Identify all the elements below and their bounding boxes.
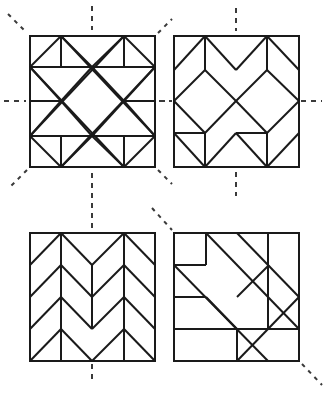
- diagonal-axis-bottom-right: [302, 364, 322, 385]
- pattern-segment: [236, 133, 267, 167]
- pattern-segment: [30, 329, 61, 361]
- pattern-segment: [174, 70, 205, 101]
- block-4-group: [174, 233, 299, 361]
- pattern-segment: [124, 36, 155, 67]
- diagonal-axis-bottom-left: [10, 170, 27, 187]
- pattern-segment: [61, 233, 92, 265]
- pattern-segment: [205, 70, 236, 101]
- pattern-segment: [267, 101, 299, 133]
- pattern-segment: [174, 133, 205, 167]
- pattern-segment: [236, 70, 267, 101]
- pattern-segment: [124, 329, 155, 361]
- block-2-group: [174, 36, 299, 167]
- block-3-group: [30, 233, 155, 361]
- pattern-segment: [30, 233, 61, 265]
- pattern-segment: [267, 70, 299, 101]
- block-1-group: [30, 36, 155, 167]
- pattern-segment: [92, 67, 124, 101]
- quilt-symmetry-figure: [0, 0, 330, 393]
- pattern-segment: [30, 297, 61, 329]
- pattern-segment: [174, 101, 205, 133]
- diagonal-axis-bottom-right: [158, 170, 172, 184]
- pattern-segment: [61, 67, 92, 101]
- block-4-pattern: [174, 233, 299, 361]
- pattern-segment: [206, 297, 237, 329]
- block-1-pattern: [30, 36, 155, 167]
- pattern-segment: [174, 36, 205, 70]
- pattern-segment: [92, 297, 124, 329]
- pattern-segment: [124, 297, 155, 329]
- pattern-segment: [124, 136, 155, 167]
- block-3-pattern: [30, 233, 155, 361]
- pattern-segment: [267, 36, 299, 70]
- diagonal-axis-top-right: [158, 19, 172, 33]
- pattern-segment: [30, 36, 61, 67]
- pattern-segment: [61, 329, 92, 361]
- pattern-segment: [61, 297, 92, 329]
- pattern-segment: [92, 265, 124, 297]
- pattern-segment: [205, 36, 236, 70]
- diagonal-axis-top-left: [8, 14, 27, 33]
- pattern-segment: [92, 329, 124, 361]
- pattern-segment: [124, 233, 155, 265]
- pattern-segment: [124, 265, 155, 297]
- pattern-segment: [92, 233, 124, 265]
- pattern-segment: [205, 133, 236, 167]
- block-2-pattern: [174, 36, 299, 167]
- pattern-segment: [61, 265, 92, 297]
- diagonal-axis-top-left: [152, 208, 172, 230]
- figure-canvas: [0, 0, 330, 393]
- pattern-segment: [30, 136, 61, 167]
- pattern-segment: [236, 101, 267, 133]
- pattern-segment: [267, 133, 299, 167]
- pattern-segment: [205, 101, 236, 133]
- pattern-segment: [30, 265, 61, 297]
- pattern-segment: [236, 36, 267, 70]
